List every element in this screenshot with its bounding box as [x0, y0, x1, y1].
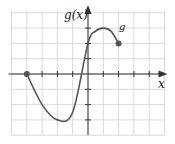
curve-label: g	[119, 21, 125, 32]
endpoint-right	[116, 40, 122, 46]
endpoint-left	[24, 71, 30, 77]
graph-canvas: g(x) x g	[0, 0, 175, 144]
y-axis-label: g(x)	[64, 8, 88, 22]
axes	[9, 5, 168, 135]
x-axis-label: x	[158, 77, 165, 91]
